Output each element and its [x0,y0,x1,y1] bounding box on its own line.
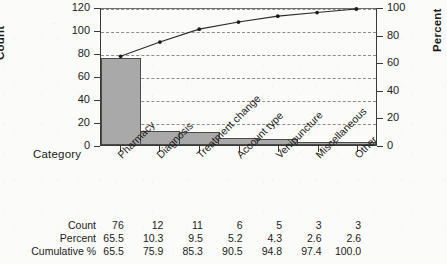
y-tick-label-left: 40 [46,94,90,105]
y-tick-right [377,118,383,119]
pareto-chart-figure: Count Percent Category 02040608010012002… [0,0,447,264]
table-cell: 90.5 [199,245,243,258]
table-cell: 65.5 [80,232,124,245]
table-cell: 5.2 [199,232,243,245]
table-cell: 85.3 [159,245,203,258]
y-tick-right [377,91,383,92]
table-cell: 11 [159,219,203,232]
y-tick-label-left: 80 [46,48,90,59]
cumulative-marker-5 [315,11,319,15]
y-tick-label-left: 20 [46,117,90,128]
y-tick-label-right: 80 [387,30,421,41]
table-cell: 65.5 [80,245,124,258]
table-cell: 97.4 [278,245,322,258]
y-axis-title-count: Count [0,26,6,60]
cumulative-marker-1 [158,40,162,44]
table-cell: 3 [317,219,361,232]
table-cell: 4.3 [238,232,282,245]
table-cell: 12 [119,219,163,232]
y-tick-label-left: 120 [46,2,90,13]
table-cell: 75.9 [119,245,163,258]
cumulative-marker-6 [354,7,358,11]
data-table: Count7612116533Percent65.510.39.55.24.32… [0,219,447,258]
cumulative-line-path [121,9,357,56]
table-cell: 2.6 [317,232,361,245]
table-cell: 6 [199,219,243,232]
y-tick-left [94,31,100,32]
y-tick-right [377,63,383,64]
y-tick-label-left: 60 [46,71,90,82]
y-tick-right [377,8,383,9]
y-tick-label-right: 40 [387,85,421,96]
y-tick-label-right: 100 [387,2,421,13]
table-row: Cumulative %65.575.985.390.594.897.4100.… [0,245,447,258]
table-cell: 5 [238,219,282,232]
y-tick-left [94,100,100,101]
cumulative-marker-0 [119,54,123,58]
table-cell: 3 [278,219,322,232]
y-tick-right [377,146,383,147]
y-tick-label-left: 100 [46,25,90,36]
y-tick-left [94,54,100,55]
y-tick-label-right: 0 [387,140,421,151]
table-cell: 10.3 [119,232,163,245]
y-tick-right [377,36,383,37]
table-row: Percent65.510.39.55.24.32.62.6 [0,232,447,245]
y-tick-left [94,146,100,147]
cumulative-marker-2 [197,27,201,31]
table-cell: 2.6 [278,232,322,245]
table-cell: 76 [80,219,124,232]
y-tick-label-left: 0 [46,140,90,151]
y-tick-left [94,123,100,124]
table-row: Count7612116533 [0,219,447,232]
table-cell: 9.5 [159,232,203,245]
table-cell: 94.8 [238,245,282,258]
cumulative-marker-3 [237,20,241,24]
y2-axis-title-percent: Percent [431,8,443,52]
cumulative-marker-4 [276,14,280,18]
y-tick-left [94,77,100,78]
y-tick-left [94,8,100,9]
y-tick-label-right: 20 [387,112,421,123]
y-tick-label-right: 60 [387,57,421,68]
table-cell: 100.0 [317,245,361,258]
